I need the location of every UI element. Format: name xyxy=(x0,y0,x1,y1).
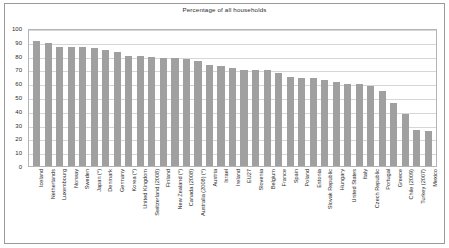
bar xyxy=(148,57,155,166)
x-axis-label-slot: Finland xyxy=(157,168,169,244)
bar xyxy=(310,78,317,166)
chart-figure: Percentage of all households 10090807060… xyxy=(0,0,449,248)
bar-series xyxy=(29,30,436,166)
y-axis-tick-label: 10 xyxy=(15,150,22,156)
bar-slot xyxy=(365,30,377,166)
x-axis-label-slot: Slovenia xyxy=(250,168,262,244)
bar xyxy=(240,70,247,166)
x-axis-label-slot: Spain xyxy=(285,168,297,244)
x-axis-label-slot: Iceland xyxy=(30,168,42,244)
bar-slot xyxy=(227,30,239,166)
bar-slot xyxy=(54,30,66,166)
bar xyxy=(194,61,201,166)
bar-slot xyxy=(388,30,400,166)
bar xyxy=(413,130,420,166)
bar-slot xyxy=(284,30,296,166)
bar xyxy=(321,80,328,166)
bar xyxy=(79,47,86,166)
x-axis-label-slot: Slovak Republic xyxy=(319,168,331,244)
y-axis: 1009080706050403020100 xyxy=(0,29,26,167)
y-axis-tick-label: 70 xyxy=(15,67,22,73)
bar-slot xyxy=(319,30,331,166)
x-axis-label-slot: France xyxy=(273,168,285,244)
x-axis-label-slot: EU27 xyxy=(238,168,250,244)
x-axis-label-slot: Australia (2008) (*) xyxy=(192,168,204,244)
x-axis-label-slot: Chile (2009) xyxy=(401,168,413,244)
bar-slot xyxy=(250,30,262,166)
bar xyxy=(298,78,305,166)
bar xyxy=(183,59,190,166)
bar-slot xyxy=(169,30,181,166)
bar xyxy=(344,84,351,166)
bar-slot xyxy=(112,30,124,166)
bar xyxy=(171,58,178,166)
bar xyxy=(160,58,167,166)
x-axis-label-slot: Norway xyxy=(65,168,77,244)
bar-slot xyxy=(261,30,273,166)
x-axis-label-slot: Ireland xyxy=(227,168,239,244)
bar-slot xyxy=(123,30,135,166)
bar xyxy=(33,41,40,166)
bar xyxy=(402,114,409,166)
x-axis-label-slot: Czech Republic xyxy=(366,168,378,244)
x-axis-tick-label: Mexico xyxy=(432,169,438,187)
bar xyxy=(333,82,340,166)
bar xyxy=(114,52,121,166)
bar xyxy=(137,56,144,166)
x-axis-label-slot: Switzerland (2008) xyxy=(146,168,158,244)
y-axis-tick-label: 0 xyxy=(19,164,22,170)
bar xyxy=(229,68,236,166)
bar-slot xyxy=(411,30,423,166)
x-axis-label-slot: Netherlands xyxy=(42,168,54,244)
x-axis-label-slot: Poland xyxy=(296,168,308,244)
bar-slot xyxy=(330,30,342,166)
x-axis-label-slot: Germany xyxy=(111,168,123,244)
bar-slot xyxy=(376,30,388,166)
bar-slot xyxy=(77,30,89,166)
bar xyxy=(125,56,132,166)
bar xyxy=(68,47,75,166)
plot-area xyxy=(28,29,437,167)
x-axis-label-slot: Turkey (2007) xyxy=(412,168,424,244)
bar-slot xyxy=(423,30,435,166)
x-axis-label-slot: Austria xyxy=(204,168,216,244)
bar-slot xyxy=(158,30,170,166)
bar-slot xyxy=(192,30,204,166)
y-axis-tick-label: 50 xyxy=(15,95,22,101)
bar-slot xyxy=(342,30,354,166)
x-axis-label-slot: United States xyxy=(343,168,355,244)
y-axis-tick-label: 20 xyxy=(15,136,22,142)
bar-slot xyxy=(100,30,112,166)
bar-slot xyxy=(43,30,55,166)
bar-slot xyxy=(135,30,147,166)
y-axis-tick-label: 30 xyxy=(15,123,22,129)
x-axis-label-slot: Italy xyxy=(354,168,366,244)
bar xyxy=(91,48,98,166)
bar xyxy=(102,50,109,166)
bar-slot xyxy=(66,30,78,166)
bar xyxy=(206,65,213,166)
x-axis-label-slot: Estonia xyxy=(308,168,320,244)
bar-slot xyxy=(400,30,412,166)
bar xyxy=(264,70,271,166)
x-axis-label-slot: Mexico xyxy=(424,168,436,244)
y-axis-tick-label: 80 xyxy=(15,54,22,60)
y-axis-tick-label: 100 xyxy=(12,26,22,32)
bar xyxy=(252,70,259,166)
bar-slot xyxy=(307,30,319,166)
bar-slot xyxy=(215,30,227,166)
x-axis-label-slot: New Zealand (*) xyxy=(169,168,181,244)
x-axis-label-slot: Hungary xyxy=(331,168,343,244)
bar-slot xyxy=(204,30,216,166)
bar-slot xyxy=(238,30,250,166)
x-axis-label-slot: Japan (*) xyxy=(88,168,100,244)
bar-slot xyxy=(31,30,43,166)
x-axis: IcelandNetherlandsLuxembourgNorwaySweden… xyxy=(28,168,437,244)
bar xyxy=(217,66,224,166)
bar xyxy=(390,103,397,166)
bar xyxy=(425,131,432,166)
bar xyxy=(275,73,282,166)
x-axis-label-slot: Sweden xyxy=(76,168,88,244)
bar-slot xyxy=(273,30,285,166)
bar xyxy=(45,43,52,166)
